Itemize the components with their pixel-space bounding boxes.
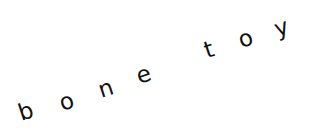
letter-b: b — [15, 99, 36, 125]
letter-o-2: o — [235, 26, 255, 52]
rotated-phrase: b o n e t o y — [0, 0, 319, 138]
letter-y: y — [271, 15, 291, 41]
letter-o: o — [56, 89, 76, 115]
letter-t: t — [201, 37, 217, 62]
letter-e: e — [133, 62, 154, 88]
letter-n: n — [95, 76, 116, 102]
image-canvas: b o n e t o y — [0, 0, 319, 138]
